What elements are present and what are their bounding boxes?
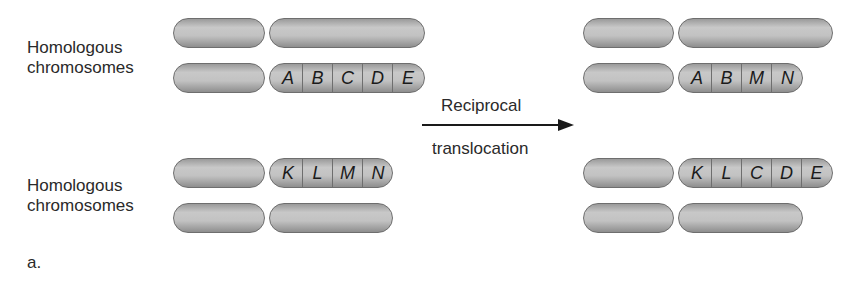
chromosome-after-2: A B M N xyxy=(583,63,803,93)
chromosome-after-1 xyxy=(583,18,833,48)
homologous-label-top-line1: Homologous xyxy=(27,38,134,58)
chromosome-arm-short xyxy=(583,18,674,48)
gene-segment: C xyxy=(332,64,362,92)
homologous-label-bottom-line1: Homologous xyxy=(27,176,134,196)
chromosome-arm-long xyxy=(269,18,425,48)
chromosome-arm-long xyxy=(678,203,803,233)
gene-segment: A xyxy=(683,64,711,92)
arrow-right-icon xyxy=(558,119,574,131)
gene-segment: C xyxy=(741,159,771,187)
gene-segment: D xyxy=(362,64,392,92)
gene-segment: A xyxy=(274,64,302,92)
gene-segment: M xyxy=(332,159,362,187)
arrow-line xyxy=(422,124,560,126)
chromosome-arm-long: A B C D E xyxy=(269,63,425,93)
chromosome-before-4 xyxy=(173,203,393,233)
chromosome-arm-long xyxy=(678,18,833,48)
chromosome-arm-short xyxy=(583,203,674,233)
chromosome-arm-long: A B M N xyxy=(678,63,803,93)
chromosome-arm-long: K L M N xyxy=(269,158,393,188)
chromosome-after-3: K L C D E xyxy=(583,158,833,188)
chromosome-arm-short xyxy=(173,203,265,233)
chromosome-arm-long xyxy=(269,203,393,233)
chromosome-arm-short xyxy=(173,18,265,48)
homologous-label-bottom: Homologous chromosomes xyxy=(27,176,134,216)
panel-label: a. xyxy=(27,253,41,273)
gene-segment: K xyxy=(683,159,711,187)
gene-segment: D xyxy=(771,159,801,187)
chromosome-arm-short xyxy=(583,63,674,93)
chromosome-before-3: K L M N xyxy=(173,158,393,188)
gene-segment: L xyxy=(711,159,741,187)
chromosome-arm-short xyxy=(583,158,674,188)
gene-segment: M xyxy=(741,64,771,92)
gene-segment: K xyxy=(274,159,302,187)
arrow-label-top: Reciprocal xyxy=(441,96,521,116)
gene-segment: E xyxy=(392,64,423,92)
gene-segment: L xyxy=(302,159,332,187)
gene-segment: N xyxy=(771,64,803,92)
homologous-label-bottom-line2: chromosomes xyxy=(27,196,134,216)
gene-segment: B xyxy=(711,64,741,92)
chromosome-before-1 xyxy=(173,18,425,48)
chromosome-before-2: A B C D E xyxy=(173,63,425,93)
chromosome-after-4 xyxy=(583,203,803,233)
chromosome-arm-long: K L C D E xyxy=(678,158,833,188)
homologous-label-top-line2: chromosomes xyxy=(27,58,134,78)
arrow-label-bottom: translocation xyxy=(432,139,528,159)
chromosome-arm-short xyxy=(173,158,265,188)
homologous-label-top: Homologous chromosomes xyxy=(27,38,134,78)
chromosome-arm-short xyxy=(173,63,265,93)
gene-segment: E xyxy=(801,159,831,187)
gene-segment: B xyxy=(302,64,332,92)
gene-segment: N xyxy=(362,159,393,187)
